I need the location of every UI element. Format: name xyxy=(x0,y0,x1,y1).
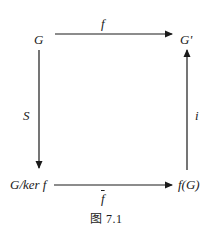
label-top-f: f xyxy=(101,17,105,31)
figure-caption: 图 7.1 xyxy=(90,212,123,226)
label-right-i: i xyxy=(195,109,199,123)
label-bottom-f-bar: f xyxy=(101,192,105,206)
node-g: G xyxy=(34,33,43,47)
node-image-fg: f(G) xyxy=(178,178,200,192)
commutative-diagram: G G' G/ker f f(G) f S i f 图 7.1 xyxy=(0,0,215,236)
label-left-s: S xyxy=(23,109,30,123)
node-g-prime: G' xyxy=(180,33,192,47)
node-quotient-group: G/ker f xyxy=(10,178,46,192)
